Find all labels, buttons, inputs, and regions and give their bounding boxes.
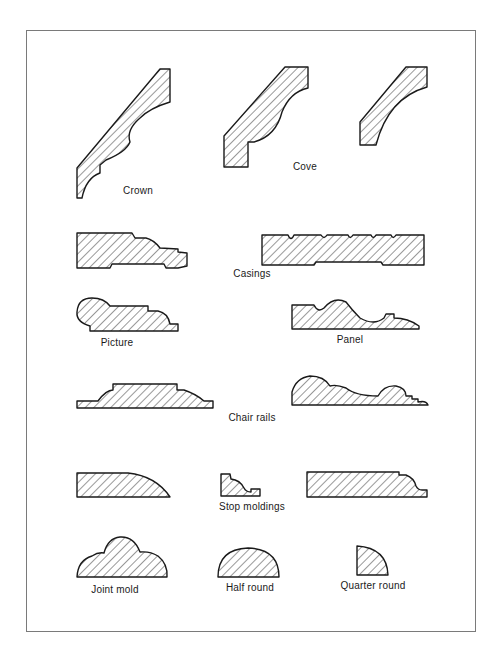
stop-molding-profile-3 — [307, 472, 427, 497]
quarter-round-profile — [357, 546, 388, 575]
label-cove: Cove — [293, 161, 317, 172]
stop-molding-profile-2 — [221, 474, 260, 496]
label-picture: Picture — [101, 337, 134, 348]
label-quarter-round: Quarter round — [341, 580, 406, 591]
joint-mold-profile — [77, 537, 167, 577]
casing-profile-2 — [262, 235, 424, 265]
chair-rail-profile-1 — [77, 384, 213, 408]
label-joint-mold: Joint mold — [91, 584, 139, 595]
casing-profile-1 — [77, 233, 187, 268]
chair-rail-profile-2 — [292, 376, 428, 405]
label-casings: Casings — [233, 268, 271, 279]
panel-profile — [292, 300, 419, 329]
stop-molding-profile-1 — [77, 473, 170, 497]
crown-profile — [77, 69, 170, 198]
label-panel: Panel — [337, 334, 364, 345]
cove-profile-1 — [224, 67, 308, 167]
label-half-round: Half round — [226, 582, 274, 593]
cove-profile-2 — [360, 67, 427, 145]
label-chair-rails: Chair rails — [228, 412, 275, 423]
molding-profiles-diagram — [0, 0, 499, 658]
half-round-profile — [218, 548, 279, 577]
label-crown: Crown — [123, 185, 153, 196]
label-stop-moldings: Stop moldings — [219, 501, 285, 512]
picture-profile — [77, 298, 178, 331]
